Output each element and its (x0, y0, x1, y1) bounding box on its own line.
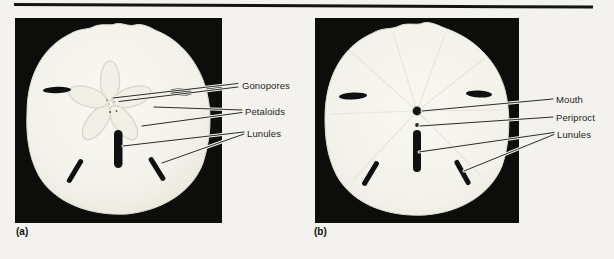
panel-b-caption: (b) (314, 226, 327, 238)
sand-dollar-body (325, 23, 509, 216)
figure-top-rule (14, 3, 593, 8)
lunule-center (114, 130, 123, 168)
label-lunules-b: Lunules (557, 129, 591, 140)
figure-page: Gonopores Petaloids Lunules Mouth Peripr… (0, 0, 614, 259)
label-petaloids: Petaloids (245, 106, 285, 117)
label-lunules-a: Lunules (247, 128, 281, 139)
label-mouth: Mouth (556, 94, 583, 105)
panel-a-photo (15, 18, 222, 223)
lunule-center (413, 130, 421, 172)
label-periproct: Periproct (556, 112, 595, 123)
label-gonopores: Gonopores (242, 80, 290, 91)
panel-a-caption: (a) (16, 226, 28, 238)
sand-dollar-oral-image (315, 18, 519, 223)
sand-dollar-aboral-image (15, 18, 222, 223)
mouth-opening (413, 107, 422, 116)
panel-b-photo (315, 18, 519, 223)
periproct-opening (415, 123, 419, 127)
